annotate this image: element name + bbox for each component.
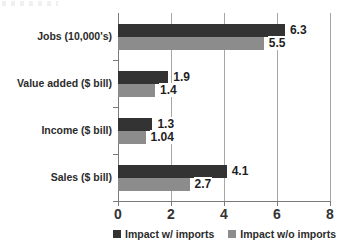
category-label: Value added ($ bill) — [0, 77, 112, 89]
x-axis-tick-label: 2 — [156, 206, 186, 222]
bar — [118, 84, 155, 97]
bar-value-label: 1.9 — [172, 70, 191, 84]
bar-value-label: 1.04 — [150, 130, 175, 144]
y-axis-tick — [113, 60, 118, 61]
bar — [118, 131, 146, 144]
x-axis-tick-label: 8 — [315, 206, 344, 222]
bar-value-label: 1.4 — [159, 83, 178, 97]
legend-swatch-icon — [113, 230, 121, 238]
bar-value-label: 6.3 — [289, 23, 308, 37]
legend-label: Impact w/o imports — [240, 228, 336, 240]
bar-chart: 02468 Jobs (10,000's)Value added ($ bill… — [0, 0, 344, 252]
legend-label: Impact w/ imports — [125, 228, 214, 240]
legend-item[interactable]: Impact w/o imports — [228, 228, 336, 240]
x-axis-tick-label: 0 — [103, 206, 133, 222]
bar-value-label: 2.7 — [194, 177, 213, 191]
chart-legend: Impact w/ importsImpact w/o imports — [118, 228, 331, 240]
legend-swatch-icon — [228, 230, 236, 238]
category-label: Sales ($ bill) — [0, 171, 112, 183]
x-axis-tick-label: 4 — [209, 206, 239, 222]
x-axis-tick-label: 6 — [262, 206, 292, 222]
category-label: Jobs (10,000's) — [0, 30, 112, 42]
bar — [118, 118, 152, 131]
scan-artifact — [2, 1, 58, 6]
bar — [118, 178, 190, 191]
legend-item[interactable]: Impact w/ imports — [113, 228, 214, 240]
bar-value-label: 4.1 — [231, 164, 250, 178]
bar-value-label: 1.3 — [156, 117, 175, 131]
y-axis-tick — [113, 107, 118, 108]
y-axis-tick — [113, 154, 118, 155]
bar-value-label: 5.5 — [268, 36, 287, 50]
gridline — [330, 13, 331, 201]
category-label: Income ($ bill) — [0, 124, 112, 136]
bar — [118, 24, 285, 37]
bar — [118, 37, 264, 50]
